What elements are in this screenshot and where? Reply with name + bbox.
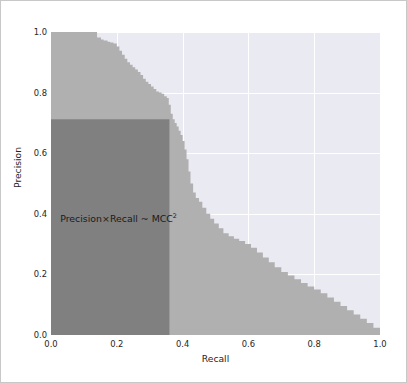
- x-axis-label: Recall: [51, 353, 380, 364]
- mcc-annotation: Precision×Recall ~ MCC2: [60, 214, 177, 223]
- x-tick-label: 0.6: [242, 340, 255, 348]
- figure-canvas: Precision×Recall ~ MCC2 0.00.20.40.60.81…: [0, 0, 407, 383]
- x-tick-label: 0.2: [110, 340, 123, 348]
- y-tick-label: 0.8: [34, 89, 47, 97]
- y-axis-label: Precision: [12, 128, 23, 208]
- y-tick-label: 0.2: [34, 270, 47, 278]
- precision-recall-chart: [51, 32, 380, 335]
- y-tick-label: 1.0: [34, 28, 47, 36]
- y-tick-label: 0.4: [34, 210, 47, 218]
- x-tick-label: 0.8: [308, 340, 321, 348]
- x-tick-label: 0.4: [176, 340, 189, 348]
- x-tick-label: 0.0: [44, 340, 57, 348]
- mcc-annotation-exponent: 2: [173, 212, 177, 220]
- x-tick-label: 1.0: [373, 340, 386, 348]
- plot-area: Precision×Recall ~ MCC2: [51, 32, 380, 335]
- precision-recall-rectangle: [51, 119, 169, 335]
- x-axis-ticks: 0.00.20.40.60.81.0: [51, 340, 380, 354]
- y-tick-label: 0.6: [34, 149, 47, 157]
- mcc-annotation-text: Precision×Recall ~ MCC: [60, 213, 173, 224]
